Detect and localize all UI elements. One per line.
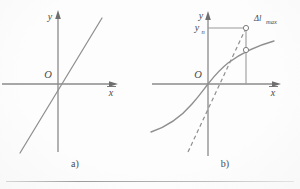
x-axis-arrow-b — [272, 81, 281, 87]
panel-b: y y n x O Δl max b) — [150, 0, 300, 189]
bottom-divider-rule — [6, 181, 294, 182]
panel-a-caption: a) — [0, 158, 150, 169]
panel-b-caption: b) — [150, 158, 300, 169]
figure-root: y x O a) — [0, 0, 300, 189]
tangent-point-marker-b — [243, 25, 248, 30]
linear-graph-line-a — [20, 18, 102, 153]
y-axis-arrow-b — [205, 11, 211, 20]
x-axis-arrow-a — [109, 81, 118, 87]
tangent-dashed-line-b — [188, 28, 246, 152]
curve-point-marker-b — [243, 47, 248, 52]
saturating-curve-b — [151, 41, 274, 132]
y-axis-arrow-a — [55, 10, 61, 19]
panel-a: y x O a) — [0, 0, 150, 189]
